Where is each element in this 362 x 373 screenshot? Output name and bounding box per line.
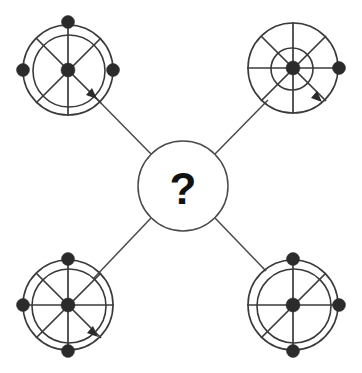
diagram-svg: ? xyxy=(0,0,362,373)
wheel-bottom-right xyxy=(247,253,346,358)
wheel-bottom-left-dot-center xyxy=(61,298,75,312)
connector-center-to-top-left xyxy=(93,95,151,154)
wheel-top-right-dot-center xyxy=(286,61,300,75)
center-node: ? xyxy=(138,141,228,231)
wheel-bottom-right-dot-bottom xyxy=(287,345,300,358)
wheel-top-left-dot-left xyxy=(17,64,30,77)
wheel-top-right-dot-right xyxy=(333,62,346,75)
wheel-top-left-dot-top xyxy=(62,16,75,29)
wheel-top-left xyxy=(17,16,120,117)
wheel-bottom-right-dot-right xyxy=(333,299,346,312)
wheel-bottom-left-dot-top xyxy=(62,253,75,266)
wheel-bottom-left-dot-bottom xyxy=(62,345,75,358)
wheel-bottom-left-dot-left xyxy=(17,299,30,312)
wheel-top-right xyxy=(247,22,346,114)
connector-center-to-top-right xyxy=(215,100,268,154)
puzzle-diagram: ? xyxy=(0,0,362,373)
connector-center-to-bottom-left xyxy=(93,218,151,279)
connector-center-to-bottom-right xyxy=(215,218,266,271)
wheel-bottom-right-dot-top xyxy=(287,253,300,266)
wheel-bottom-right-dot-center xyxy=(286,298,300,312)
wheel-top-left-dot-right xyxy=(107,64,120,77)
wheel-bottom-left xyxy=(17,253,115,358)
center-question-mark: ? xyxy=(170,164,197,213)
wheel-top-left-dot-center xyxy=(61,63,75,77)
